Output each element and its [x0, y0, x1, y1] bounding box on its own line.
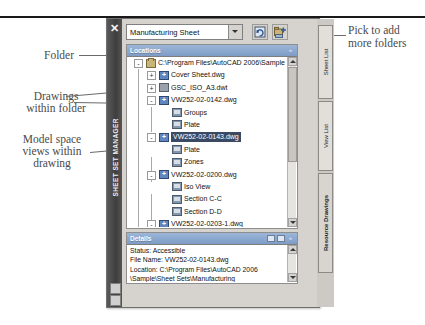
tree-row-label: Cover Sheet.dwg [171, 70, 225, 80]
view-icon [172, 158, 182, 167]
tree-row-label: Plate [184, 120, 200, 130]
tree-row[interactable]: -C:\Program Files\AutoCAD 2006\Sample [128, 57, 287, 69]
annotation-drawings-line2: within folder [8, 102, 104, 115]
details-line: Status: Accessible [130, 246, 285, 255]
sheet-set-manager-palette: ✕ SHEET SET MANAGER Manufacturing Sheet [106, 18, 320, 308]
drawing-icon [159, 220, 169, 227]
tab-sheet-list-label: Sheet List [322, 49, 330, 76]
collapse-icon[interactable]: » [287, 47, 294, 54]
tree-collapse-toggle[interactable]: - [147, 220, 156, 227]
tree-collapse-toggle[interactable]: - [147, 171, 156, 180]
palette-title-bar: ✕ SHEET SET MANAGER [107, 19, 122, 307]
palette-properties-icon[interactable] [110, 295, 121, 306]
tree-row-label: Section D-D [184, 207, 222, 217]
tree-row[interactable]: +Cover Sheet.dwg [128, 69, 287, 81]
tree-row-label: Plate [184, 145, 200, 155]
tree-row[interactable]: -VW252-02-0142.dwg [128, 94, 287, 106]
tree-collapse-toggle[interactable]: - [147, 133, 156, 142]
tree-row-label: VW252-02-0142.dwg [171, 95, 237, 105]
details-scrollbar[interactable] [287, 245, 296, 282]
tree-row-label: Section C-C [184, 194, 222, 204]
details-panel: Details » Status: AccessibleFile Name: V… [126, 232, 298, 284]
tree-expand-toggle[interactable]: + [147, 71, 156, 80]
details-body: Status: AccessibleFile Name: VW252-02-01… [128, 245, 287, 282]
details-collapse-icon[interactable]: » [287, 235, 294, 242]
tree-row-label: C:\Program Files\AutoCAD 2006\Sample [158, 58, 285, 68]
tree-row[interactable]: +GSC_ISO_A3.dwt [128, 82, 287, 94]
tree-row[interactable]: -VW252-02-0143.dwg [128, 131, 287, 143]
tree-rows: -C:\Program Files\AutoCAD 2006\Sample+Co… [128, 57, 287, 227]
annotation-modelspace-line3: drawing [20, 157, 84, 170]
view-icon [172, 207, 182, 216]
details-details-toggle[interactable] [277, 235, 285, 242]
details-line: Location: C:\Program Files\AutoCAD 2006 [130, 265, 285, 274]
tree-row[interactable]: Iso View [128, 181, 287, 193]
details-scroll-down-button[interactable] [288, 273, 297, 282]
view-icon [172, 108, 182, 117]
tab-sheet-list[interactable]: Sheet List [318, 25, 333, 99]
view-icon [172, 120, 182, 129]
annotation-folder: Folder [44, 49, 74, 62]
palette-content: Manufacturing Sheet [122, 19, 302, 307]
tree-row[interactable]: Plate [128, 144, 287, 156]
annotation-pick-line1: Pick to add [348, 24, 400, 37]
locations-title: Locations [130, 45, 161, 56]
tab-view-list-label: View List [322, 124, 330, 148]
locations-panel: Locations » -C:\Program Files\AutoCAD 20… [126, 44, 298, 229]
view-icon [172, 195, 182, 204]
tree-row[interactable]: -VW252-02-0203-1.dwg [128, 218, 287, 227]
tree-collapse-toggle[interactable]: - [147, 96, 156, 105]
details-title: Details [130, 233, 151, 244]
tree-row[interactable]: Section C-C [128, 193, 287, 205]
tab-resource-drawings-label: Resource Drawings [322, 195, 330, 251]
tab-view-list[interactable]: View List [318, 101, 333, 171]
tree-row[interactable]: Plate [128, 119, 287, 131]
tree-row-label: Iso View [184, 182, 210, 192]
template-icon [159, 83, 169, 92]
scroll-up-button[interactable] [288, 57, 297, 66]
sheet-set-select-value: Manufacturing Sheet [130, 26, 199, 39]
details-preview-toggle[interactable] [267, 235, 275, 242]
sheet-set-select[interactable]: Manufacturing Sheet [126, 24, 243, 40]
tree-row[interactable]: Groups [128, 107, 287, 119]
tree-expand-toggle[interactable]: + [147, 84, 156, 93]
autohide-icon[interactable] [110, 283, 121, 294]
close-icon[interactable]: ✕ [108, 20, 121, 36]
add-folder-button[interactable] [272, 24, 288, 40]
palette-toolbar: Manufacturing Sheet [126, 24, 298, 41]
drawing-icon [159, 71, 169, 80]
palette-title: SHEET SET MANAGER [112, 119, 119, 197]
tree-row-label: VW252-02-0200.dwg [171, 170, 237, 180]
refresh-icon [253, 25, 267, 39]
palette-tab-strip: Sheet List View List Resource Drawings [317, 19, 334, 307]
annotation-pick-line2: more folders [348, 37, 406, 50]
tree-row-label: VW252-02-0143.dwg [171, 132, 241, 142]
tree-scrollbar[interactable] [287, 57, 296, 227]
chevron-down-icon[interactable] [228, 25, 242, 39]
tree-collapse-toggle[interactable]: - [134, 59, 143, 68]
add-folder-icon [273, 25, 287, 39]
details-scroll-up-button[interactable] [288, 245, 297, 254]
tab-resource-drawings[interactable]: Resource Drawings [318, 173, 333, 273]
drawing-icon [159, 170, 169, 179]
tree-row-label: Groups [184, 108, 207, 118]
details-line: File Name: VW252-02-0143.dwg [130, 255, 285, 264]
details-header: Details » [127, 233, 297, 245]
view-icon [172, 182, 182, 191]
scroll-down-button[interactable] [288, 218, 297, 227]
details-line: \Sample\Sheet Sets\Manufacturing [130, 274, 285, 282]
view-icon [172, 145, 182, 154]
scroll-thumb[interactable] [288, 67, 297, 162]
tree-row-label: GSC_ISO_A3.dwt [171, 83, 227, 93]
tree-row[interactable]: -VW252-02-0200.dwg [128, 169, 287, 181]
locations-tree[interactable]: -C:\Program Files\AutoCAD 2006\Sample+Co… [128, 57, 287, 227]
tree-row-label: VW252-02-0203-1.dwg [171, 219, 243, 227]
refresh-sheet-button[interactable] [252, 24, 268, 40]
folder-icon [146, 59, 156, 68]
figure-canvas: Folder Drawings within folder Model spac… [0, 0, 425, 325]
tree-row[interactable]: Section D-D [128, 206, 287, 218]
locations-header: Locations » [127, 45, 297, 57]
tree-row[interactable]: Zones [128, 156, 287, 168]
tree-row-label: Zones [184, 157, 203, 167]
drawing-icon [159, 96, 169, 105]
